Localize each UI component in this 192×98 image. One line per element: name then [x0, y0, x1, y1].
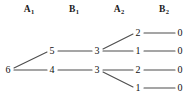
tree-edge [14, 52, 47, 68]
tree-edge [103, 34, 133, 49]
tree-node-root: 6 [4, 65, 11, 75]
tree-node-b1-u: 3 [93, 46, 100, 56]
tree-node-a1-u: 5 [48, 46, 55, 56]
tree-node-a2-1: 2 [134, 28, 141, 38]
tree-node-a2-3: 2 [134, 65, 141, 75]
tree-node-a2-4: 1 [134, 83, 141, 93]
tree-node-b1-l: 3 [93, 65, 100, 75]
tree-node-b2-2: 0 [176, 46, 183, 56]
tree-node-b2-1: 0 [176, 28, 183, 38]
tree-node-a1-l: 4 [48, 65, 55, 75]
edges-group [14, 33, 175, 88]
tree-node-b2-4: 0 [176, 83, 183, 93]
tree-node-b2-3: 0 [176, 65, 183, 75]
tree-node-a2-2: 1 [134, 46, 141, 56]
tree-edge [103, 72, 133, 87]
tree-diagram-figure: A1B1A2B2 6543321210000 [0, 0, 192, 98]
